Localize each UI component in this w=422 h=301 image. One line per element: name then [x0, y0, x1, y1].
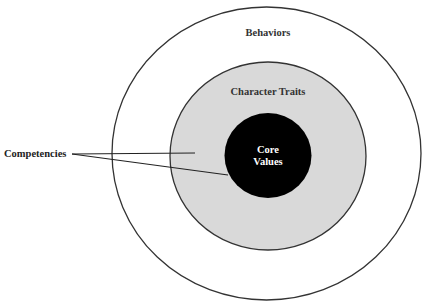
- behaviors-label: Behaviors: [246, 27, 291, 38]
- core-values-label-line2: Values: [253, 156, 282, 167]
- concentric-circles-diagram: Behaviors Character Traits Core Values C…: [0, 0, 422, 301]
- competencies-label: Competencies: [4, 148, 66, 159]
- core-values-label-line1: Core: [257, 144, 279, 155]
- character-traits-label: Character Traits: [231, 86, 306, 97]
